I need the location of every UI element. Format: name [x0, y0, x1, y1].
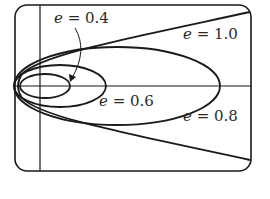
eccentricity-diagram: e = 0.4 e = 1.0 e = 0.6 e = 0.8 — [0, 0, 270, 199]
arrow-e-0.4 — [72, 28, 81, 78]
label-e-0.8: e = 0.8 — [183, 107, 238, 125]
label-e-1.0: e = 1.0 — [183, 25, 238, 43]
arrowhead-icon — [69, 74, 76, 82]
label-e-0.6: e = 0.6 — [99, 92, 154, 110]
label-e-0.4: e = 0.4 — [54, 9, 109, 27]
